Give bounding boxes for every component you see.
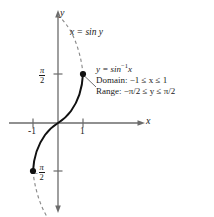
y-tick-label-pi-over-two: π 2 <box>39 66 45 85</box>
fraction-denominator: 2 <box>39 75 45 85</box>
equation-lead: y = sin <box>96 64 121 74</box>
annotation-block: y = sin−1x Domain: −1 ≤ x ≤ 1 Range: −π/… <box>96 60 175 98</box>
graph-canvas <box>0 0 214 217</box>
x-axis-label: x <box>146 116 150 126</box>
x-tick-label-positive-one: 1 <box>80 127 85 137</box>
equation-line: y = sin−1x <box>96 60 175 75</box>
inverse-sine-figure: y x -1 1 π 2 – π 2 x = sin y y = sin−1x … <box>0 0 214 217</box>
y-axis <box>55 10 61 213</box>
fraction-numerator: π <box>39 66 45 75</box>
fraction-pi-over-two: π 2 <box>39 66 45 85</box>
fraction-denominator: 2 <box>39 172 45 182</box>
x-axis <box>9 120 145 126</box>
y-axis-label: y <box>60 8 64 18</box>
endpoint-dot-upper <box>80 71 86 77</box>
x-tick-label-negative-one: -1 <box>28 127 36 137</box>
inverse-curve-equation-label: x = sin y <box>70 28 103 38</box>
equation-exponent: −1 <box>121 62 128 69</box>
fraction-pi-over-two-negative: π 2 <box>39 163 45 182</box>
domain-line: Domain: −1 ≤ x ≤ 1 <box>96 75 175 86</box>
range-line: Range: −π/2 ≤ y ≤ π/2 <box>96 86 175 97</box>
equation-tail: x <box>128 64 132 74</box>
annotation-leader-line <box>85 77 96 88</box>
y-tick-label-negative-pi-over-two: – π 2 <box>33 163 45 182</box>
dashed-curve-upper <box>58 15 83 74</box>
fraction-numerator: π <box>39 163 45 172</box>
